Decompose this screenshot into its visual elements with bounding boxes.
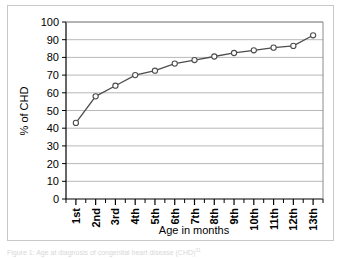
x-tick-label: 11th [268, 208, 280, 230]
data-point-marker [271, 45, 276, 50]
y-tick-label: 40 [47, 122, 59, 134]
y-axis-ticks: 0102030405060708090100 [41, 16, 66, 205]
chart-frame: 0102030405060708090100 1st2nd3rd4th5th6t… [7, 5, 334, 241]
y-tick-label: 80 [47, 51, 59, 63]
data-point-marker [113, 83, 118, 88]
y-tick-label: 70 [47, 69, 59, 81]
data-point-marker [231, 50, 236, 55]
y-tick-label: 0 [53, 193, 59, 205]
x-tick-label: 12th [287, 208, 299, 231]
data-point-marker [251, 48, 256, 53]
y-tick-label: 30 [47, 140, 59, 152]
data-point-marker [152, 68, 157, 73]
y-tick-label: 10 [47, 175, 59, 187]
x-tick-label: 1st [70, 208, 82, 224]
x-tick-label: 8th [208, 208, 220, 225]
data-point-marker [291, 43, 296, 48]
line-chart: 0102030405060708090100 1st2nd3rd4th5th6t… [8, 6, 333, 240]
y-tick-label: 50 [47, 105, 59, 117]
data-point-marker [212, 54, 217, 59]
x-tick-label: 13th [307, 208, 319, 231]
data-point-marker [73, 120, 78, 125]
x-tick-label: 10th [248, 208, 260, 231]
data-point-marker [133, 73, 138, 78]
x-tick-label: 2nd [90, 208, 102, 228]
figure-caption-superscript: 31 [195, 247, 201, 253]
figure-caption-text: Figure 1: Age at diagnosis of congenital… [7, 249, 195, 256]
x-tick-label: 3rd [109, 208, 121, 225]
y-tick-label: 100 [41, 16, 59, 28]
x-tick-label: 4th [129, 208, 141, 225]
x-tick-label: 7th [189, 208, 201, 225]
y-tick-label: 60 [47, 87, 59, 99]
x-tick-label: 9th [228, 208, 240, 225]
data-point-marker [93, 94, 98, 99]
x-tick-label: 6th [169, 208, 181, 225]
y-axis-title: % of CHD [18, 86, 30, 135]
data-point-marker [172, 61, 177, 66]
figure-caption: Figure 1: Age at diagnosis of congenital… [7, 246, 337, 257]
x-tick-label: 5th [149, 208, 161, 225]
y-tick-label: 90 [47, 34, 59, 46]
data-point-marker [192, 57, 197, 62]
figure-container: 0102030405060708090100 1st2nd3rd4th5th6t… [0, 0, 341, 259]
x-axis-title: Age in months [159, 224, 230, 236]
data-point-marker [311, 33, 316, 38]
y-tick-label: 20 [47, 158, 59, 170]
